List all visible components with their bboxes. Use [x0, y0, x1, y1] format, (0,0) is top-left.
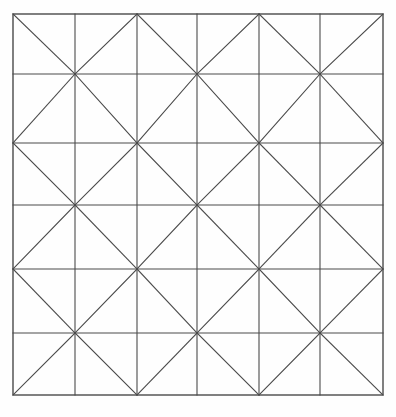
- diagonal-tr-bl: [13, 205, 75, 269]
- grid-lines-group: [13, 14, 383, 395]
- diagonal-tl-br: [197, 205, 259, 269]
- diagonal-tr-bl: [75, 269, 137, 333]
- diagonal-tl-br: [320, 333, 383, 395]
- diagonal-tl-br: [320, 74, 383, 143]
- diagonal-tr-bl: [137, 205, 197, 269]
- diagonal-tl-br: [75, 333, 137, 395]
- diagonal-tr-bl: [13, 333, 75, 395]
- diagonal-tl-br: [13, 143, 75, 205]
- diagonal-tl-br: [137, 143, 197, 205]
- diagonal-tl-br: [75, 205, 137, 269]
- diagonal-tl-br: [13, 14, 75, 74]
- diagonal-tr-bl: [259, 205, 320, 269]
- diagonal-tr-bl: [197, 269, 259, 333]
- diagonal-tl-br: [320, 205, 383, 269]
- diagonal-tr-bl: [137, 333, 197, 395]
- diagonal-tl-br: [137, 269, 197, 333]
- diagonal-tl-br: [197, 74, 259, 143]
- diagonal-tl-br: [197, 333, 259, 395]
- diagonal-lattice-figure: [0, 0, 396, 417]
- diagonal-tr-bl: [137, 74, 197, 143]
- diagonal-tl-br: [137, 14, 197, 74]
- lattice-drawing: [0, 0, 396, 417]
- diagonal-tr-bl: [259, 333, 320, 395]
- diagonal-tr-bl: [75, 14, 137, 74]
- diagonal-tl-br: [13, 269, 75, 333]
- diagonal-tl-br: [75, 74, 137, 143]
- diagonal-tr-bl: [197, 14, 259, 74]
- diagonal-tr-bl: [75, 143, 137, 205]
- diagonal-tr-bl: [259, 74, 320, 143]
- diagonal-tl-br: [259, 143, 320, 205]
- diagonal-tl-br: [259, 269, 320, 333]
- diagonal-tl-br: [259, 14, 320, 74]
- diagonal-tr-bl: [13, 74, 75, 143]
- diagonal-tr-bl: [197, 143, 259, 205]
- diagonal-tr-bl: [320, 269, 383, 333]
- diagonal-tr-bl: [320, 14, 383, 74]
- diagonal-tr-bl: [320, 143, 383, 205]
